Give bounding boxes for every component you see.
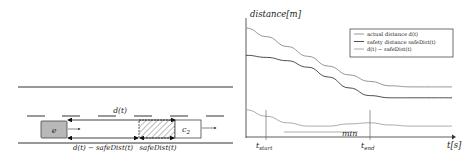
distance-label: d(t) <box>113 106 127 115</box>
x-axis-label: t[s] <box>447 140 462 150</box>
chart-legend: actual distance d(t)safety distance safe… <box>350 29 453 57</box>
distance-chart-svg: distance[m] t[s] tstart tend min actual … <box>240 0 476 162</box>
safe-zone <box>139 120 175 138</box>
legend-label: d(t) − safeDist(t) <box>367 46 412 52</box>
min-label: min <box>342 129 357 138</box>
series-line-2 <box>246 110 452 126</box>
road-scene-diagram: e c2 d(t) d(t) − safeDist(t) safeDist(t) <box>0 0 240 162</box>
series-line-1 <box>246 55 452 98</box>
y-axis-label: distance[m] <box>250 9 302 19</box>
safe-dist-label: safeDist(t) <box>139 144 176 152</box>
legend-label: actual distance d(t) <box>367 31 418 37</box>
gap-label: d(t) − safeDist(t) <box>73 144 133 152</box>
t-end-label: tend <box>361 141 375 151</box>
distance-chart: distance[m] t[s] tstart tend min actual … <box>240 0 476 162</box>
ego-vehicle-label: e <box>52 126 57 135</box>
t-start-label: tstart <box>256 141 273 151</box>
legend-label: safety distance safeDist(t) <box>367 39 436 46</box>
road-scene-svg: e c2 d(t) d(t) − safeDist(t) safeDist(t) <box>0 0 240 162</box>
x-axis-arrowhead <box>452 135 456 140</box>
